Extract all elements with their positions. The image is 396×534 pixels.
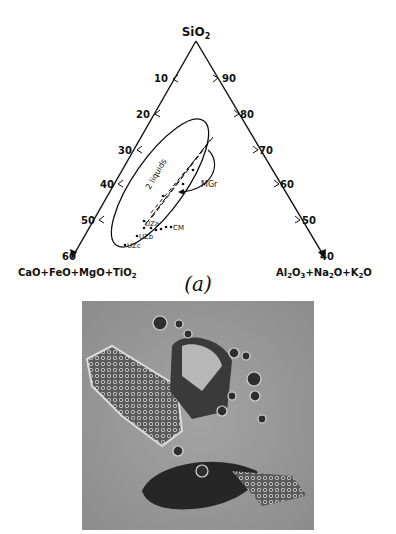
uza-label: UZa: [145, 220, 159, 228]
uzb-label: UZb: [139, 233, 154, 241]
apex-label: SiO2: [182, 25, 211, 41]
svg-text:60: 60: [280, 179, 294, 190]
field-label: 2 liquids: [144, 157, 169, 191]
svg-text:60: 60: [62, 251, 76, 262]
svg-text:30: 30: [118, 145, 132, 156]
svg-text:70: 70: [259, 145, 273, 156]
right-ticks: 90 80 70 60 50 40: [222, 73, 334, 262]
micrograph-photo: [82, 301, 314, 530]
mgr-label: MGr: [201, 180, 218, 189]
svg-text:40: 40: [320, 251, 334, 262]
ternary-diagram: SiO2 10 20 30 40 50 60 90 80 70 60 50 40…: [0, 0, 396, 300]
svg-text:20: 20: [136, 109, 150, 120]
svg-text:10: 10: [154, 73, 168, 84]
svg-text:50: 50: [81, 215, 95, 226]
uzc-label: UZc: [127, 242, 141, 250]
svg-text:90: 90: [222, 73, 236, 84]
cm-label: CM: [173, 224, 184, 232]
svg-text:40: 40: [100, 179, 114, 190]
svg-text:80: 80: [240, 109, 254, 120]
svg-text:50: 50: [302, 215, 316, 226]
figure-caption: (a): [0, 272, 396, 296]
